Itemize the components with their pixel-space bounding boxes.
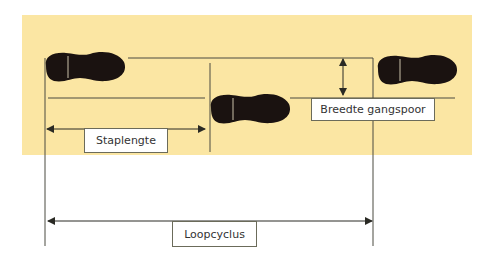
step-length-label: Staplengte [84, 128, 168, 153]
footprint-icon [211, 94, 290, 123]
footprint-icon [46, 52, 125, 81]
gait-cycle-label: Loopcyclus [172, 221, 257, 247]
footprint-icon [378, 55, 457, 84]
track-width-label: Breedte gangspoor [311, 98, 435, 121]
